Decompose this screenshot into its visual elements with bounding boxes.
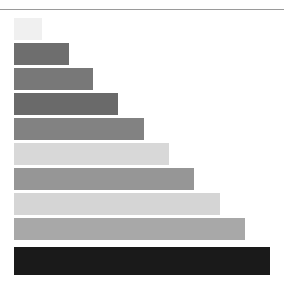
- bar-chart-figure: [0, 0, 284, 294]
- bar-9: [14, 218, 245, 240]
- bar-4: [14, 93, 118, 115]
- bar-3: [14, 68, 93, 90]
- bar-8: [14, 193, 220, 215]
- bar-6: [14, 143, 169, 165]
- bar-1: [14, 18, 42, 40]
- bar-2: [14, 43, 69, 65]
- bar-10: [14, 247, 270, 275]
- bar-7: [14, 168, 194, 190]
- plot-area: [0, 0, 284, 294]
- bar-5: [14, 118, 144, 140]
